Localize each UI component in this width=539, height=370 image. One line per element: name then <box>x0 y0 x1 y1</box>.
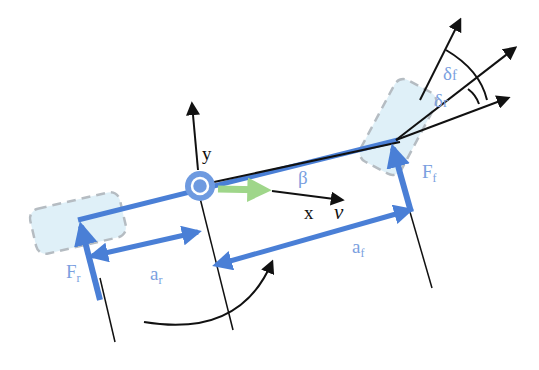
x-axis-arrow <box>272 191 342 200</box>
bicycle-model-diagram: y x v β Ff Fr ar af δf δr <box>0 0 539 370</box>
velocity-vector-green <box>218 189 262 190</box>
front-force-label: Ff <box>422 161 437 185</box>
rear-wheel <box>28 190 128 256</box>
front-steer-angle-label: δf <box>443 63 457 84</box>
yaw-rate-arrow <box>144 262 272 325</box>
y-axis-arrow <box>192 104 198 170</box>
front-wheel-direction-arrow <box>420 20 460 100</box>
front-distance-label: af <box>352 236 364 260</box>
rear-force-label: Fr <box>66 261 81 285</box>
center-of-gravity <box>185 171 215 201</box>
sideslip-angle-label: β <box>298 167 308 188</box>
rear-steer-angle-arc <box>468 89 479 104</box>
x-axis-label: x <box>304 202 314 223</box>
rear-distance-label: ar <box>150 263 162 287</box>
rear-perpendicular-line <box>100 278 115 342</box>
rear-steer-angle-label: δr <box>434 90 448 111</box>
y-axis-label: y <box>202 143 212 164</box>
front-perpendicular-line <box>410 212 432 288</box>
velocity-label: v <box>334 200 344 224</box>
